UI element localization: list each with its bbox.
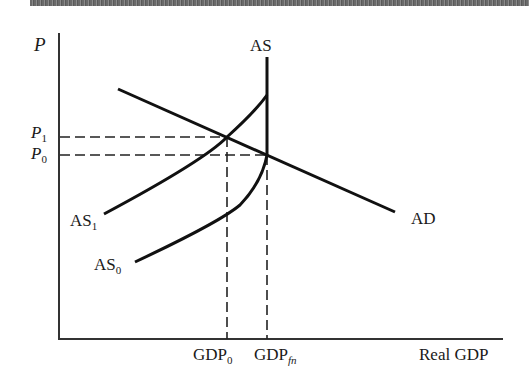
as-vertical-label: AS [250, 37, 272, 54]
chart-canvas [0, 0, 529, 390]
gdpfn-label: GDPfn [254, 346, 297, 366]
y-axis-label: P [34, 35, 46, 54]
guide-lines [60, 137, 267, 339]
gdp0-label: GDP0 [193, 346, 233, 366]
as0-label: AS0 [94, 256, 121, 276]
as0-curve [135, 155, 267, 262]
axes [59, 33, 503, 339]
p1-label: P1 [31, 124, 47, 144]
p0-label: P0 [31, 145, 47, 165]
ad-label: AD [411, 210, 436, 227]
x-axis-label: Real GDP [419, 346, 488, 363]
as1-label: AS1 [70, 212, 97, 232]
